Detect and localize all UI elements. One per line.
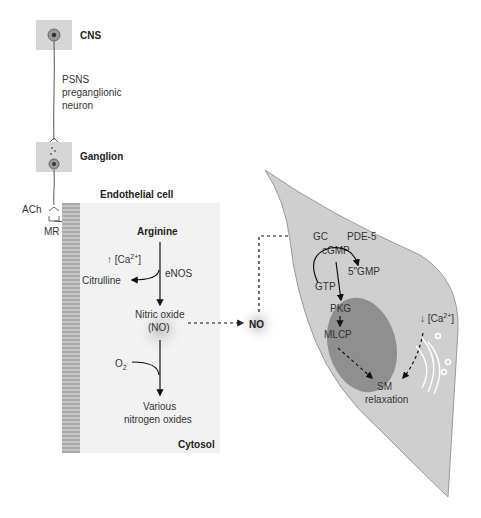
various-label-2: nitrogen oxides	[124, 414, 192, 425]
ach-label: ACh	[22, 204, 41, 215]
nitric-oxide-pathway-diagram: CNS PSNS preganglionic neuron Ganglion A…	[0, 0, 481, 518]
cgmp-label: cGMP	[322, 245, 350, 256]
pde5-label: PDE-5	[347, 231, 377, 242]
preganglionic-axon	[54, 41, 55, 140]
cns-label: CNS	[80, 30, 101, 41]
gtp-label: GTP	[315, 281, 336, 292]
mr-label: MR	[44, 226, 60, 237]
arginine-label: Arginine	[137, 226, 178, 237]
pkg-label: PKG	[330, 303, 351, 314]
nitric-oxide-label-2: (NO)	[148, 322, 170, 333]
endothelial-title: Endothelial cell	[100, 189, 174, 200]
psns-label-1: PSNS	[62, 74, 90, 85]
postganglionic-axon	[54, 170, 55, 205]
ganglion-label: Ganglion	[80, 151, 123, 162]
5gmp-label: 5"GMP	[348, 266, 380, 277]
psns-label-3: neuron	[62, 100, 93, 111]
citrulline-label: Citrulline	[82, 275, 121, 286]
enos-label: eNOS	[165, 268, 193, 279]
nitric-oxide-label-1: Nitric oxide	[135, 309, 185, 320]
sm-label-2: relaxation	[365, 394, 408, 405]
various-label-1: Various	[143, 401, 176, 412]
cytosol-label: Cytosol	[178, 439, 215, 450]
cell-membrane	[62, 203, 80, 453]
ganglion-body	[36, 138, 72, 172]
gc-label: GC	[313, 231, 328, 242]
no-diffusing-label: NO	[249, 319, 264, 330]
mlcp-label: MLCP	[324, 329, 352, 340]
psns-label-2: preganglionic	[62, 87, 122, 98]
sm-label-1: SM	[377, 381, 392, 392]
